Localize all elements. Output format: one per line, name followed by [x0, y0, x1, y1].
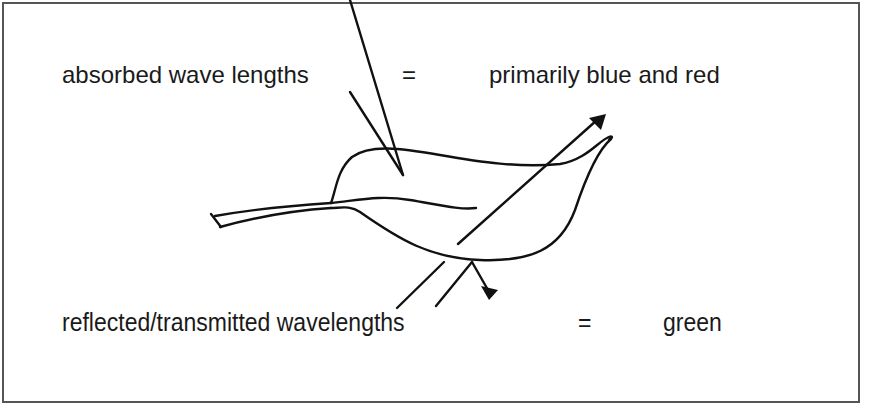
incoming-light-line-2: [436, 262, 472, 306]
arrowhead-down-icon: [481, 286, 498, 300]
reflected-arrow: [472, 262, 488, 290]
arrowhead-up-icon: [589, 114, 606, 130]
leaf-illustration: [0, 0, 870, 418]
transmitted-arrow: [458, 120, 597, 244]
leaf-icon: [211, 137, 612, 261]
incoming-light-line-1: [397, 262, 444, 308]
